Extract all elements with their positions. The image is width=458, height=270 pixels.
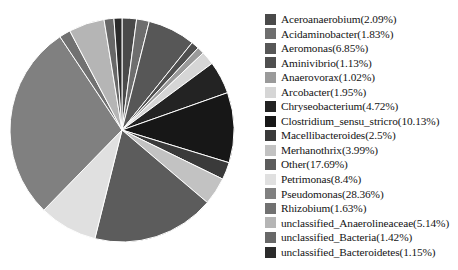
pie-chart-plot-area [8,12,236,252]
legend-color-swatch [265,188,276,199]
legend-item-label: Pseudomonas(28.36%) [281,187,384,202]
legend-item[interactable]: Anaerovorax(1.02%) [265,70,458,85]
legend-item-label: Rhizobium(1.63%) [281,201,366,216]
legend-item-label: Aceroanaerobium(2.09%) [281,12,396,27]
legend-color-swatch [265,174,276,185]
legend-color-swatch [265,116,276,127]
legend-item-label: Petrimonas(8.4%) [281,172,361,187]
legend-color-swatch [265,87,276,98]
legend-color-swatch [265,217,276,228]
legend-item-label: Arcobacter(1.95%) [281,85,366,100]
legend-item[interactable]: Pseudomonas(28.36%) [265,187,458,202]
legend-item[interactable]: Chryseobacterium(4.72%) [265,99,458,114]
legend-item-label: Aeromonas(6.85%) [281,41,368,56]
legend-item[interactable]: Acidaminobacter(1.83%) [265,27,458,42]
legend-color-swatch [265,72,276,83]
legend-color-swatch [265,28,276,39]
legend-color-swatch [265,247,276,258]
legend-item[interactable]: Aceroanaerobium(2.09%) [265,12,458,27]
legend-item-label: Merhanothrix(3.99%) [281,143,378,158]
chart-legend: Aceroanaerobium(2.09%)Acidaminobacter(1.… [265,12,458,260]
pie-svg [8,12,236,252]
legend-item-label: Anaerovorax(1.02%) [281,70,375,85]
legend-item-label: Clostridium_sensu_stricro(10.13%) [281,114,439,129]
legend-item-label: unclassified_Bacteroidetes(1.15%) [281,245,436,260]
legend-item[interactable]: unclassified_Bacteroidetes(1.15%) [265,245,458,260]
legend-item-label: Acidaminobacter(1.83%) [281,27,393,42]
legend-item-label: Chryseobacterium(4.72%) [281,99,398,114]
legend-color-swatch [265,101,276,112]
legend-item[interactable]: Aminivibrio(1.13%) [265,56,458,71]
legend-item[interactable]: Rhizobium(1.63%) [265,201,458,216]
legend-color-swatch [265,43,276,54]
pie-slice-group [10,18,234,242]
pie-chart-figure: Aceroanaerobium(2.09%)Acidaminobacter(1.… [0,0,458,270]
legend-item[interactable]: Other(17.69%) [265,157,458,172]
legend-item-label: unclassified_Bacteria(1.42%) [281,230,412,245]
legend-color-swatch [265,130,276,141]
legend-item[interactable]: Clostridium_sensu_stricro(10.13%) [265,114,458,129]
legend-color-swatch [265,232,276,243]
legend-item-label: Aminivibrio(1.13%) [281,56,372,71]
legend-item[interactable]: Arcobacter(1.95%) [265,85,458,100]
legend-item[interactable]: Macellibacteroides(2.5%) [265,128,458,143]
legend-color-swatch [265,159,276,170]
legend-item[interactable]: Petrimonas(8.4%) [265,172,458,187]
legend-color-swatch [265,145,276,156]
legend-item[interactable]: unclassified_Bacteria(1.42%) [265,230,458,245]
legend-item[interactable]: unclassified_Anaerolineaceae(5.14%) [265,216,458,231]
legend-item-label: Macellibacteroides(2.5%) [281,128,396,143]
legend-item-label: unclassified_Anaerolineaceae(5.14%) [281,216,449,231]
legend-color-swatch [265,14,276,25]
legend-item[interactable]: Aeromonas(6.85%) [265,41,458,56]
legend-color-swatch [265,57,276,68]
legend-item-label: Other(17.69%) [281,157,348,172]
legend-color-swatch [265,203,276,214]
legend-item[interactable]: Merhanothrix(3.99%) [265,143,458,158]
